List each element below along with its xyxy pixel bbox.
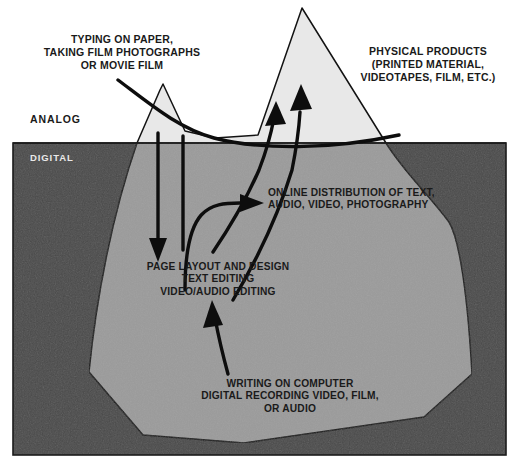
label-analog-zone: ANALOG <box>30 113 81 126</box>
label-online-distribution: ONLINE DISTRIBUTION OF TEXT, AUDIO, VIDE… <box>268 187 438 212</box>
label-typing-on-paper: TYPING ON PAPER, TAKING FILM PHOTOGRAPHS… <box>24 33 220 71</box>
label-digital-zone: DIGITAL <box>30 152 74 164</box>
label-writing-on-computer: WRITING ON COMPUTER DIGITAL RECORDING VI… <box>180 378 400 415</box>
label-page-layout-and-design: PAGE LAYOUT AND DESIGN TEXT EDITING VIDE… <box>118 261 318 298</box>
iceberg-diagram-figure: TYPING ON PAPER, TAKING FILM PHOTOGRAPHS… <box>0 0 525 475</box>
label-physical-products: PHYSICAL PRODUCTS (PRINTED MATERIAL, VID… <box>348 45 508 83</box>
